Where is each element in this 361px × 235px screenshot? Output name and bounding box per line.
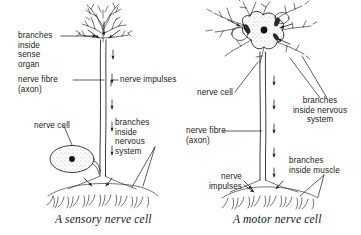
sensory-terminal-branches (47, 176, 158, 208)
label-nerve-impulses-motor: nerveimpulses (178, 172, 242, 191)
label-nerve-fibre-axon-sensory: nerve fibre(axon) (18, 75, 58, 94)
leader-motor-nerve-cell (235, 62, 258, 92)
caption-sensory-nerve-cell: A sensory nerve cell (55, 213, 152, 225)
sensory-neuron-drawing (47, 3, 158, 208)
figure-neuron-comparison: branchesinsidesenseorgan nerve fibre(axo… (0, 0, 361, 235)
label-nerve-cell-sensory: nerve cell (34, 121, 70, 131)
leader-motor-branches-muscle (300, 175, 324, 196)
label-branches-inside-muscle: branchesinside muscle (289, 156, 340, 175)
label-branches-inside-nervous-system-sensory: branchesinsidenervoussystem (115, 118, 149, 156)
label-nerve-fibre-axon-motor: nerve fibre(axon) (186, 126, 226, 145)
caption-motor-nerve-cell: A motor nerve cell (233, 213, 322, 225)
label-branches-inside-sense-organ: branchesinsidesenseorgan (18, 31, 52, 69)
sensory-cell-body (50, 146, 101, 175)
label-nerve-cell-motor: nerve cell (197, 88, 233, 98)
leader-motor-branches-ns-a (302, 56, 327, 98)
label-nerve-impulses-sensory: nerve impulses (120, 75, 176, 85)
label-branches-inside-nervous-system-motor: branchesinside nervoussystem (283, 96, 357, 125)
